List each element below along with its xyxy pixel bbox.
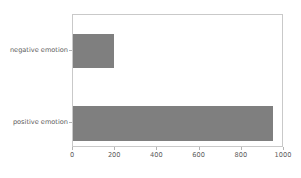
bar-positive-emotion [73, 106, 273, 141]
bar-chart-figure: negative emotion positive emotion 0 200 … [0, 0, 301, 178]
x-tick-mark-200 [114, 147, 115, 150]
x-tick-label-400: 400 [150, 152, 163, 159]
x-tick-label-600: 600 [192, 152, 205, 159]
x-tick-mark-600 [199, 147, 200, 150]
x-tick-mark-0 [72, 147, 73, 150]
x-tick-mark-400 [156, 147, 157, 150]
x-tick-mark-800 [241, 147, 242, 150]
x-tick-label-800: 800 [235, 152, 248, 159]
x-tick-label-1000: 1000 [275, 152, 292, 159]
x-tick-label-0: 0 [70, 152, 74, 159]
plot-area [72, 14, 283, 147]
x-tick-label-200: 200 [108, 152, 121, 159]
y-axis-tick-labels: negative emotion positive emotion [0, 0, 68, 178]
y-tick-label-negative-emotion: negative emotion [10, 47, 68, 54]
y-tick-label-positive-emotion: positive emotion [13, 119, 68, 126]
bar-negative-emotion [73, 34, 114, 68]
x-tick-mark-1000 [283, 147, 284, 150]
